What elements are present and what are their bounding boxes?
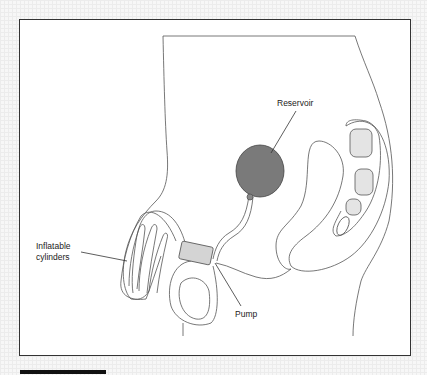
inflatable-cylinders-label: Inflatable cylinders xyxy=(36,241,71,263)
pump-leader-line xyxy=(215,263,241,306)
penis-outline xyxy=(121,212,176,299)
rectum-outline xyxy=(289,120,389,271)
cylinder-2 xyxy=(139,225,157,294)
reservoir-valve xyxy=(247,194,253,200)
perineum-outline xyxy=(216,263,291,279)
vertebra-1 xyxy=(350,129,372,157)
cylinders-leader-line xyxy=(81,252,127,261)
testis-outline xyxy=(179,278,210,319)
reservoir-label: Reservoir xyxy=(277,98,313,109)
reservoir-shape xyxy=(236,145,284,197)
scrotum-outline xyxy=(169,261,217,325)
pump-label: Pump xyxy=(235,309,257,320)
cylinder-track xyxy=(132,211,186,293)
bladder-rectum-space xyxy=(276,141,319,269)
pump-shape xyxy=(178,241,213,265)
abdomen-front-outline xyxy=(123,36,167,299)
reservoir-leader-line xyxy=(271,111,296,153)
diagram-frame: Reservoir Inflatable cylinders Pump xyxy=(19,19,411,356)
vertebra-2 xyxy=(355,169,373,195)
vertebra-3 xyxy=(346,199,361,215)
caption-bar xyxy=(20,370,106,374)
anatomy-illustration xyxy=(1,1,427,375)
